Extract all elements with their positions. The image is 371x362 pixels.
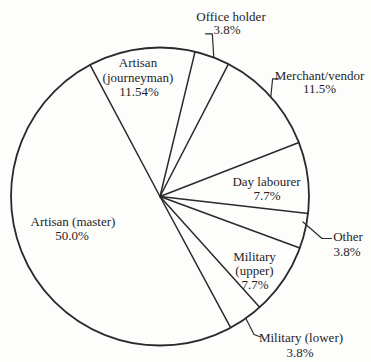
pie-pct-artisan-master: 50.0% bbox=[55, 228, 89, 243]
leader-line-slice-1 bbox=[206, 34, 214, 58]
pie-pct-office-holder: 3.8% bbox=[213, 22, 240, 37]
pie-label-artisan-journeyman: (journeyman) bbox=[103, 70, 174, 85]
pie-label-military-lower: Military (lower) bbox=[259, 330, 343, 345]
pie-pct-merchant-vendor: 11.5% bbox=[303, 81, 336, 96]
pie-label-other: Other bbox=[333, 229, 363, 244]
pie-pct-artisan-journeyman: 11.54% bbox=[119, 84, 159, 99]
pie-label-artisan-master: Artisan (master) bbox=[31, 214, 116, 229]
pie-label-military-upper: Military bbox=[233, 249, 276, 264]
pie-label-artisan-journeyman: Artisan bbox=[119, 55, 158, 70]
pie-pct-day-labourer: 7.7% bbox=[253, 188, 280, 203]
leader-line-slice-4 bbox=[303, 222, 332, 239]
pie-chart-figure: Artisan(journeyman)11.54%Office holder3.… bbox=[0, 0, 371, 362]
pie-pct-military-lower: 3.8% bbox=[286, 345, 313, 360]
pie-label-day-labourer: Day labourer bbox=[232, 174, 301, 189]
pie-pct-military-upper: 7.7% bbox=[241, 277, 268, 292]
pie-chart: Artisan(journeyman)11.54%Office holder3.… bbox=[0, 0, 371, 362]
pie-pct-other: 3.8% bbox=[333, 244, 360, 259]
leader-line-slice-6 bbox=[246, 318, 260, 337]
